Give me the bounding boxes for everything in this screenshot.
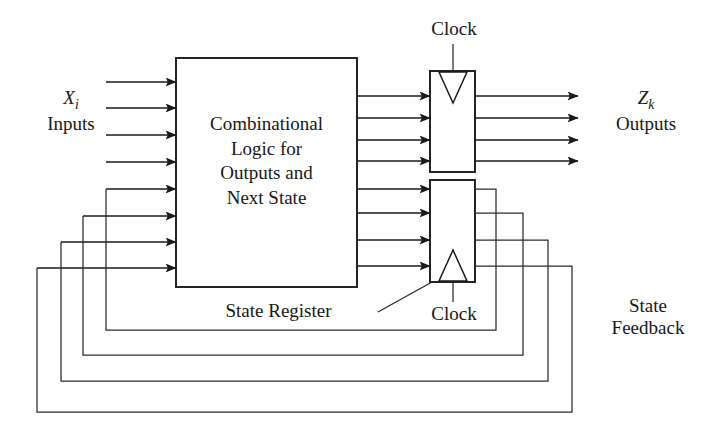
combinational-logic-label: Combinational Logic for Outputs and Next… <box>176 112 357 211</box>
state-feedback-line-1: State <box>592 295 704 317</box>
inputs-word: Inputs <box>36 113 106 135</box>
inputs-symbol: X <box>63 87 75 108</box>
outputs-subscript: k <box>648 97 654 112</box>
outputs-label: Zk Outputs <box>600 87 692 135</box>
clock-label-top: Clock <box>408 18 500 40</box>
outputs-symbol: Z <box>638 87 649 108</box>
outputs-symbol-row: Zk <box>600 87 692 113</box>
inputs-subscript: i <box>75 97 79 112</box>
inputs-symbol-row: Xi <box>36 87 106 113</box>
clock-label-bottom: Clock <box>408 303 500 325</box>
combinational-logic-line-4: Next State <box>176 186 357 211</box>
state-feedback-line-2: Feedback <box>592 317 704 339</box>
combinational-logic-line-2: Logic for <box>176 137 357 162</box>
state-feedback-label: State Feedback <box>592 295 704 340</box>
state-register-caption: State Register <box>196 300 361 322</box>
combinational-logic-line-1: Combinational <box>176 112 357 137</box>
figure-canvas: Combinational Logic for Outputs and Next… <box>0 0 712 437</box>
outputs-word: Outputs <box>600 113 692 135</box>
block-diagram-svg <box>0 0 712 437</box>
inputs-label: Xi Inputs <box>36 87 106 135</box>
combinational-logic-line-3: Outputs and <box>176 161 357 186</box>
